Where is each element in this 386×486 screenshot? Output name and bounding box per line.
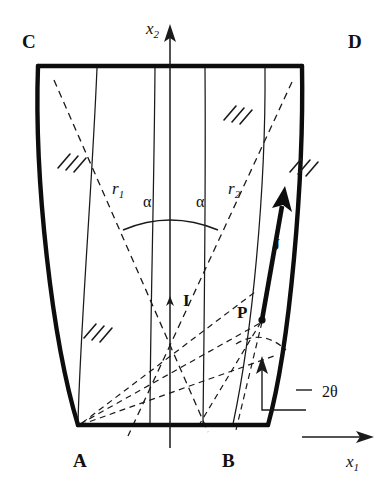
radius-label-r1-sub: 1 [119,188,125,200]
angle-label-alpha-right: α [196,193,205,210]
corner-label-a: A [73,450,87,471]
x1-axis [302,431,374,443]
axis-label-x2: x2 [145,19,160,40]
wedge-diagram: C D A B I P J x2 x1 r1 r2 α α 2θ [0,0,386,486]
corner-label-c: C [22,31,36,52]
corner-label-b: B [222,450,235,471]
axis-label-x1: x1 [345,452,359,473]
point-p-dot [258,316,265,323]
point-label-i: I [183,291,190,310]
vector-label-j: J [272,236,280,253]
point-label-p: P [237,303,247,322]
angle-label-two-theta: 2θ [322,383,338,400]
axis-label-x2-sub: 2 [154,28,160,40]
angle-label-alpha-left: α [143,193,152,210]
radius-label-r2-sub: 2 [235,188,241,200]
axis-label-x1-sub: 1 [354,461,360,473]
figure-root: C D A B I P J x2 x1 r1 r2 α α 2θ [0,0,386,486]
corner-label-d: D [348,31,362,52]
